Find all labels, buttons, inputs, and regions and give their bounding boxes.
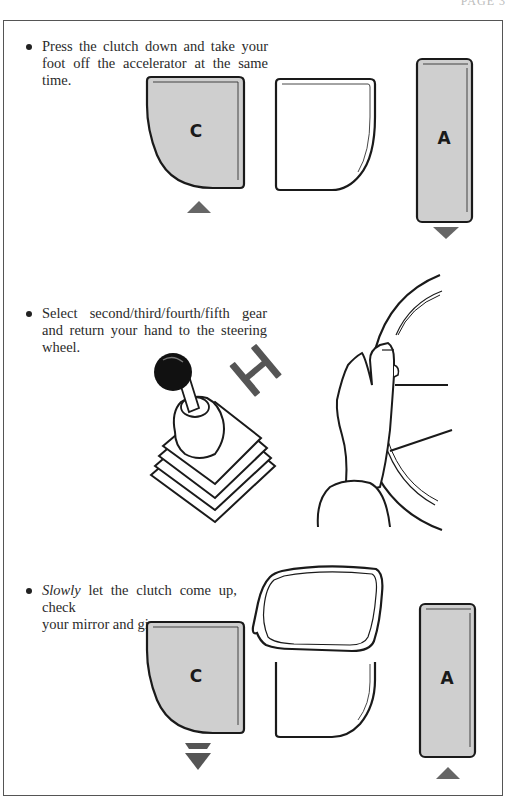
- double-arrow-down-icon: [184, 742, 212, 772]
- svg-text:A: A: [440, 668, 454, 688]
- bullet-icon: [26, 311, 32, 317]
- arrow-up-icon: [186, 200, 212, 214]
- clutch-pedal-icon: C: [143, 75, 248, 190]
- page-header: PAGE 3: [461, 0, 506, 9]
- arrow-down-icon: [432, 226, 460, 240]
- brake-pedal-icon: [274, 660, 378, 740]
- bullet-icon: [26, 44, 32, 50]
- svg-text:A: A: [437, 128, 451, 148]
- accelerator-pedal-icon: A: [418, 602, 478, 760]
- emphasis-slowly: Slowly: [42, 582, 81, 598]
- rear-view-mirror-icon: [252, 563, 384, 663]
- gear-pattern-h-icon: [232, 346, 280, 394]
- svg-text:C: C: [190, 121, 202, 141]
- hand-on-steering-wheel-icon: [300, 265, 460, 530]
- bullet-icon: [26, 588, 32, 594]
- brake-pedal-icon: [274, 77, 378, 192]
- clutch-pedal-icon: C: [143, 620, 248, 735]
- accelerator-pedal-icon: A: [415, 57, 475, 225]
- arrow-up-icon: [435, 766, 461, 780]
- svg-text:C: C: [190, 666, 202, 686]
